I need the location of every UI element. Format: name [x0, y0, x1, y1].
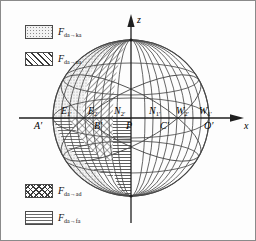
legend-swatch-diagonal [25, 52, 53, 66]
point-subscript-E2: 2′ [94, 110, 99, 117]
point-label-A: A′ [34, 121, 42, 131]
point-symbol-A: A′ [34, 120, 42, 131]
legend-swatch-horizontal [25, 211, 53, 225]
legend-subscript-checkered: da→ad [64, 191, 81, 197]
legend-entry-horizontal: Fda→fa [25, 211, 80, 225]
point-subscript-N1: 1′ [156, 110, 161, 117]
z-axis-arrowhead [127, 14, 134, 27]
x-axis-label: x [244, 121, 248, 131]
legend-label-dotted: Fda→ka [58, 27, 81, 38]
point-symbol-B: B′ [94, 120, 102, 131]
point-label-W1: W1′ [199, 106, 212, 118]
point-symbol-P: P [126, 120, 132, 131]
point-label-E2: E2′ [88, 106, 99, 118]
legend-subscript-diagonal: da→ua [64, 59, 81, 65]
north-pole-marker [129, 38, 132, 41]
point-label-C: C′ [160, 121, 169, 131]
point-symbol-O: O′ [204, 120, 213, 131]
point-label-P: P [126, 121, 132, 131]
legend-subscript-horizontal: da→fa [64, 218, 80, 224]
legend-entry-checkered: Fda→ad [25, 184, 81, 198]
point-subscript-W2: 2′ [184, 110, 189, 117]
legend-subscript-dotted: da→ka [64, 32, 81, 38]
legend-swatch-dotted [25, 25, 53, 39]
point-label-B: B′ [94, 121, 102, 131]
point-label-N2: N2′ [114, 106, 125, 118]
z-axis-label: z [137, 15, 141, 25]
legend-label-checkered: Fda→ad [58, 186, 81, 197]
point-symbol-N1: N [149, 105, 156, 116]
point-subscript-W1: 1′ [207, 110, 212, 117]
point-label-N1: N1′ [149, 106, 160, 118]
point-symbol-N2: N [114, 105, 121, 116]
point-subscript-N2: 2′ [121, 110, 126, 117]
legend-entry-dotted: Fda→ka [25, 25, 81, 39]
point-label-O: O′ [204, 121, 213, 131]
legend-swatch-checkered [25, 184, 53, 198]
legend-label-diagonal: Fda→ua [58, 54, 81, 65]
legend-entry-diagonal: Fda→ua [25, 52, 81, 66]
point-symbol-C: C′ [160, 120, 169, 131]
x-axis-arrowhead [230, 114, 244, 122]
point-subscript-E1: 1′ [67, 110, 72, 117]
south-pole-marker [129, 194, 132, 197]
figure-canvas: z x Fda→ka Fda→ua Fda→ad Fda→fa E1′ E2′ … [0, 0, 256, 241]
legend-label-horizontal: Fda→fa [58, 213, 80, 224]
point-label-W2: W2′ [176, 106, 189, 118]
point-label-E1: E1′ [61, 106, 72, 118]
